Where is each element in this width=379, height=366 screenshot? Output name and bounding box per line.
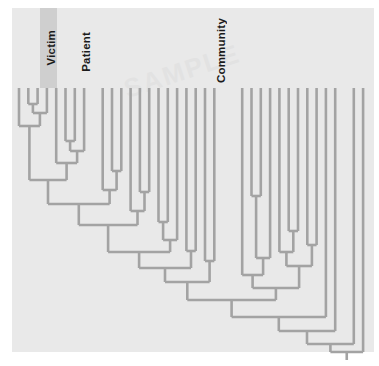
dendrogram [0,0,379,366]
figure-canvas: SAMPLE Victim Patient Community [0,0,379,366]
